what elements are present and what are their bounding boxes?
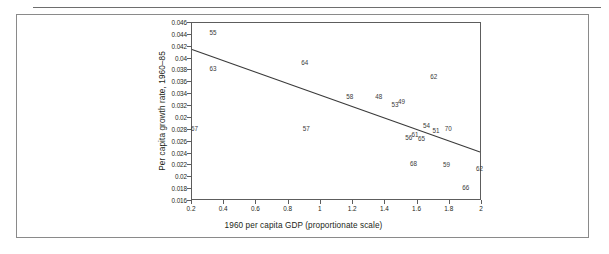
- y-tick-label: 0.028: [172, 125, 188, 132]
- y-tick-label: 0.02: [175, 173, 187, 180]
- y-tick-label: 0.026: [172, 137, 188, 144]
- plot-wrapper: Per capita growth rate, 1960–85 0.0460.0…: [17, 15, 590, 239]
- x-tick-label: 0.2: [187, 205, 196, 212]
- data-point-label: 48: [375, 94, 382, 100]
- x-tick-mark: [191, 200, 192, 204]
- y-tick-label: 0.036: [172, 78, 188, 85]
- figure-page: Per capita growth rate, 1960–85 0.0460.0…: [0, 0, 609, 254]
- y-tick-label: 0.018: [172, 185, 188, 192]
- x-tick-label: 0.4: [219, 205, 228, 212]
- x-tick-mark: [449, 200, 450, 204]
- data-point-label: 54: [423, 123, 430, 129]
- y-tick-label: 0.034: [172, 90, 188, 97]
- y-tick-label: 0.022: [172, 161, 188, 168]
- data-point-label: 57: [303, 125, 310, 131]
- x-tick-label: 2: [479, 205, 483, 212]
- y-tick-label: 0.04: [175, 54, 187, 61]
- x-tick-label: 1.2: [348, 205, 357, 212]
- x-tick-label: 0.6: [251, 205, 260, 212]
- x-axis-ticks: 0.20.40.60.811.21.41.61.82: [191, 200, 481, 220]
- y-tick-label: 0.016: [172, 197, 188, 204]
- data-point-label: 63: [209, 66, 216, 72]
- x-tick-label: 1.6: [412, 205, 421, 212]
- data-point-label: 66: [462, 185, 469, 191]
- x-tick-mark: [352, 200, 353, 204]
- y-tick-label: 0.032: [172, 102, 188, 109]
- data-point-label: 62: [476, 166, 483, 172]
- data-point-label: 65: [418, 136, 425, 142]
- data-point-label: 67: [191, 126, 198, 132]
- regression-line: [192, 49, 480, 152]
- y-tick-label: 0.042: [172, 42, 188, 49]
- x-tick-mark: [255, 200, 256, 204]
- figure-frame: Per capita growth rate, 1960–85 0.0460.0…: [16, 14, 589, 238]
- header-rule: [33, 7, 601, 8]
- data-point-label: 64: [301, 60, 308, 66]
- x-tick-mark: [320, 200, 321, 204]
- x-tick-label: 1.8: [444, 205, 453, 212]
- data-point-label: 59: [443, 162, 450, 168]
- data-point-label: 51: [433, 128, 440, 134]
- x-tick-label: 0.8: [283, 205, 292, 212]
- y-tick-label: 0.046: [172, 19, 188, 26]
- x-axis-title: 1960 per capita GDP (proportionate scale…: [17, 221, 590, 230]
- x-tick-mark: [417, 200, 418, 204]
- data-point-label: 58: [346, 93, 353, 99]
- x-tick-mark: [384, 200, 385, 204]
- data-point-label: 49: [398, 99, 405, 105]
- y-tick-label: 0.038: [172, 66, 188, 73]
- x-tick-label: 1.4: [380, 205, 389, 212]
- y-axis-ticks: 0.0460.0440.0420.040.0380.0360.0340.0320…: [137, 22, 187, 200]
- plot-area: 5563676457584853496256616554517068596266: [191, 22, 481, 200]
- x-tick-mark: [223, 200, 224, 204]
- x-tick-mark: [481, 200, 482, 204]
- data-point-label: 62: [430, 74, 437, 80]
- x-tick-mark: [288, 200, 289, 204]
- x-tick-label: 1: [318, 205, 322, 212]
- trendline-svg: [192, 23, 480, 199]
- y-tick-label: 0.02: [175, 113, 187, 120]
- data-point-label: 70: [445, 126, 452, 132]
- data-point-label: 68: [410, 161, 417, 167]
- y-tick-label: 0.024: [172, 149, 188, 156]
- y-tick-label: 0.044: [172, 30, 188, 37]
- data-point-label: 55: [209, 30, 216, 36]
